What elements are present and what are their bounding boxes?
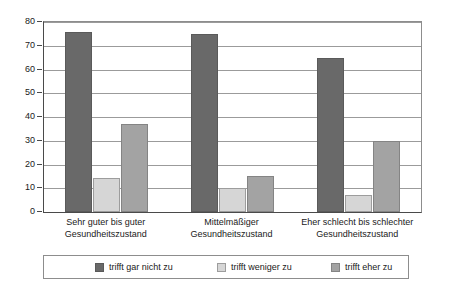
label-line: Mittelmäßiger (159, 216, 305, 228)
bar (65, 32, 92, 213)
bar (93, 178, 120, 212)
x-axis-category-label: MittelmäßigerGesundheitszustand (159, 216, 305, 240)
label-line: Gesundheitszustand (159, 228, 305, 240)
y-axis-tick-mark (37, 69, 42, 70)
y-axis-tick-label: 10 (9, 183, 35, 192)
y-axis-tick-mark (37, 21, 42, 22)
label-line: Sehr guter bis guter (33, 216, 179, 228)
bar (121, 124, 148, 212)
x-axis-category-label: Sehr guter bis guterGesundheitszustand (33, 216, 179, 240)
y-axis-tick-mark (37, 92, 42, 93)
plot-area (43, 21, 422, 213)
label-line: Gesundheitszustand (33, 228, 179, 240)
y-axis-tick-label: 60 (9, 65, 35, 74)
y-axis-tick-mark (37, 116, 42, 117)
legend-swatch (331, 263, 340, 272)
bar-group (44, 22, 170, 212)
legend-swatch (217, 263, 226, 272)
label-line: Eher schlecht bis schlechter (284, 216, 430, 228)
y-axis-tick-label: 20 (9, 160, 35, 169)
legend-item: trifft gar nicht zu (95, 261, 173, 273)
bar (345, 195, 372, 212)
chart-legend: trifft gar nicht zutrifft weniger zutrif… (43, 255, 409, 279)
legend-swatch (95, 263, 104, 272)
bar (247, 176, 274, 212)
y-axis-tick-mark (37, 45, 42, 46)
x-axis-category-labels: Sehr guter bis guterGesundheitszustandMi… (43, 216, 422, 248)
y-axis-tick-mark (37, 187, 42, 188)
legend-item: trifft eher zu (331, 261, 392, 273)
legend-label: trifft weniger zu (231, 262, 292, 272)
y-axis: 01020304050607080 (9, 0, 35, 287)
bar (219, 188, 246, 212)
bar-group (170, 22, 296, 212)
legend-item: trifft weniger zu (217, 261, 292, 273)
y-axis-tick-mark (37, 140, 42, 141)
bar (191, 34, 218, 212)
y-axis-tick-mark (37, 164, 42, 165)
legend-label: trifft gar nicht zu (109, 262, 173, 272)
bar (317, 58, 344, 212)
label-line: Gesundheitszustand (284, 228, 430, 240)
y-axis-tick-label: 50 (9, 88, 35, 97)
y-axis-tick-label: 40 (9, 112, 35, 121)
y-axis-tick-mark (37, 211, 42, 212)
y-axis-tick-label: 30 (9, 136, 35, 145)
y-axis-tick-label: 0 (9, 207, 35, 216)
legend-label: trifft eher zu (345, 262, 392, 272)
bar-chart: 01020304050607080 Sehr guter bis guterGe… (0, 0, 451, 287)
bar (373, 141, 400, 212)
y-axis-tick-label: 70 (9, 41, 35, 50)
bar-group (295, 22, 421, 212)
x-axis-category-label: Eher schlecht bis schlechterGesundheitsz… (284, 216, 430, 240)
y-axis-tick-label: 80 (9, 17, 35, 26)
